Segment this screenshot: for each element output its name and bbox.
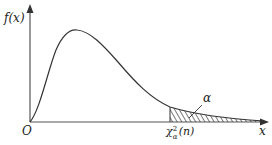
y-axis-label: f(x) bbox=[4, 12, 25, 24]
density-curve bbox=[30, 30, 264, 122]
chi-square-diagram bbox=[0, 0, 272, 145]
origin-label: O bbox=[22, 125, 32, 137]
y-axis-arrow-icon bbox=[27, 4, 34, 13]
chi-symbol: χ bbox=[166, 125, 173, 138]
critical-value-label: χ 2 α (n) bbox=[166, 126, 194, 138]
degrees-of-freedom: (n) bbox=[179, 125, 195, 138]
x-axis-label: x bbox=[259, 125, 266, 137]
subscript: α bbox=[173, 131, 178, 143]
tail-area-label: α bbox=[203, 92, 211, 104]
